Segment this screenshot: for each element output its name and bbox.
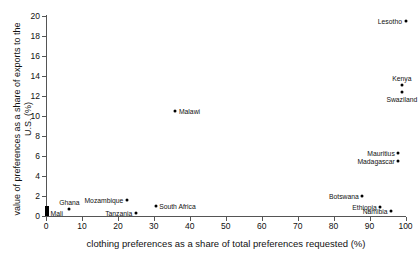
y-axis-line <box>46 15 47 217</box>
data-point-label: Swaziland <box>386 95 417 102</box>
x-tick-label: 60 <box>257 221 266 231</box>
x-tick-label: 50 <box>221 221 230 231</box>
x-tick-label: 20 <box>113 221 122 231</box>
data-point <box>68 207 71 210</box>
y-tick <box>42 16 46 17</box>
data-point <box>361 194 364 197</box>
data-point <box>397 159 400 162</box>
data-point-label: South Africa <box>159 202 196 209</box>
y-tick-label: 14 <box>0 71 40 81</box>
data-point <box>174 109 177 112</box>
data-point-label: Mali <box>51 210 63 217</box>
x-tick-label: 30 <box>149 221 158 231</box>
data-point-label: Ghana <box>59 198 79 205</box>
data-point <box>134 211 137 214</box>
x-tick-label: 70 <box>293 221 302 231</box>
data-point-label: Mozambique <box>84 196 123 203</box>
data-point-label: Lesotho <box>378 17 402 24</box>
data-point <box>400 83 403 86</box>
data-point-label: Malawi <box>179 107 200 114</box>
data-point-label: Mauritius <box>367 149 395 156</box>
y-tick <box>42 156 46 157</box>
data-point-label: Namibia <box>363 208 388 215</box>
data-point <box>390 210 393 213</box>
y-tick-label: 12 <box>0 91 40 101</box>
data-point-label: Kenya <box>392 74 411 81</box>
x-tick-label: 10 <box>77 221 86 231</box>
y-tick <box>42 116 46 117</box>
y-tick-label: 6 <box>0 151 40 161</box>
y-tick <box>42 76 46 77</box>
y-tick <box>42 36 46 37</box>
x-tick-label: 90 <box>365 221 374 231</box>
y-tick-label: 20 <box>0 11 40 21</box>
data-point <box>404 19 407 22</box>
scatter-plot: value of preferences as a share of expor… <box>0 0 419 256</box>
y-tick <box>42 196 46 197</box>
x-axis-label: clothing preferences as a share of total… <box>46 238 406 249</box>
y-tick <box>42 176 46 177</box>
data-point <box>397 151 400 154</box>
y-tick <box>42 96 46 97</box>
x-tick-label: 0 <box>44 221 49 231</box>
data-point <box>46 212 49 215</box>
data-point-label: Botswana <box>329 192 359 199</box>
y-tick <box>42 136 46 137</box>
y-tick-label: 2 <box>0 191 40 201</box>
data-point <box>125 198 128 201</box>
y-tick-label: 4 <box>0 171 40 181</box>
y-tick-label: 18 <box>0 31 40 41</box>
y-tick-label: 8 <box>0 131 40 141</box>
y-tick-label: 0 <box>0 211 40 221</box>
y-tick-label: 10 <box>0 111 40 121</box>
y-tick <box>42 56 46 57</box>
y-tick-label: 16 <box>0 51 40 61</box>
data-point <box>154 204 157 207</box>
x-tick-label: 100 <box>398 221 412 231</box>
x-tick-label: 40 <box>185 221 194 231</box>
data-point-label: Tanzania <box>105 209 132 216</box>
data-point <box>400 90 403 93</box>
x-tick-label: 80 <box>329 221 338 231</box>
data-point-label: Madagascar <box>357 157 394 164</box>
